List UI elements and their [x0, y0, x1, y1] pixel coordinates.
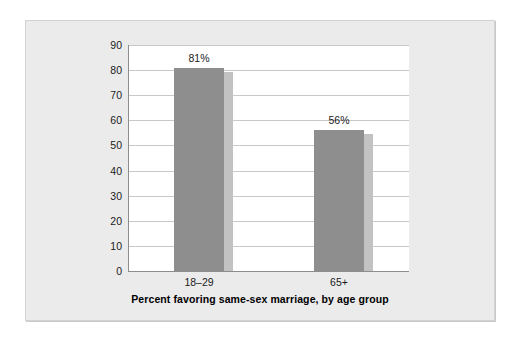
x-axis-tick-labels: 18–2965+ — [129, 277, 409, 293]
bar[interactable]: 81% — [174, 45, 224, 271]
y-axis-tick-label: 90 — [86, 40, 122, 51]
bar-chart: 81%56% 9080706050403020100 18–2965+ Perc… — [26, 21, 494, 320]
bar-value-label: 81% — [188, 53, 209, 64]
y-axis-tick-label: 30 — [86, 191, 122, 202]
y-axis-tick-label: 60 — [86, 115, 122, 126]
y-axis-tick-label: 80 — [86, 65, 122, 76]
gridline — [129, 271, 409, 272]
bar[interactable]: 56% — [314, 45, 364, 271]
bar-value-label: 56% — [328, 115, 349, 126]
bar-fill — [174, 68, 224, 271]
y-axis-tick-label: 40 — [86, 166, 122, 177]
x-axis-tick-label: 18–29 — [184, 277, 213, 288]
x-axis-title: Percent favoring same-sex marriage, by a… — [26, 293, 494, 305]
plot-area: 81%56% — [129, 45, 409, 271]
y-axis-line — [128, 45, 129, 272]
bar-fill — [314, 130, 364, 271]
y-axis-tick-labels: 9080706050403020100 — [86, 45, 122, 271]
y-axis-tick-label: 20 — [86, 216, 122, 227]
chart-screenshot: 81%56% 9080706050403020100 18–2965+ Perc… — [0, 0, 523, 345]
figure-panel: 81%56% 9080706050403020100 18–2965+ Perc… — [25, 20, 495, 321]
y-axis-tick-label: 50 — [86, 140, 122, 151]
x-axis-tick-label: 65+ — [330, 277, 348, 288]
bars-layer: 81%56% — [129, 45, 409, 271]
y-axis-tick-label: 10 — [86, 241, 122, 252]
y-axis-tick-label: 70 — [86, 90, 122, 101]
y-axis-tick-label: 0 — [86, 266, 122, 277]
